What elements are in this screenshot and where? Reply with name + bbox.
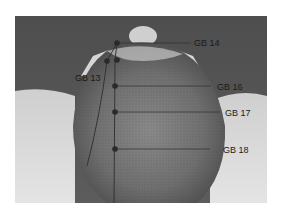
head-photo: GB 14 GB 13 GB 16 GB 17 GB 18 bbox=[15, 16, 267, 203]
gb17-label: GB 17 bbox=[225, 108, 251, 118]
gb13-label: GB 13 bbox=[75, 73, 101, 83]
gb18-label: GB 18 bbox=[223, 145, 249, 155]
gb15-point bbox=[114, 57, 120, 63]
gb14-point bbox=[114, 40, 120, 46]
gb16-label: GB 16 bbox=[217, 82, 243, 92]
gb18-point bbox=[112, 146, 118, 152]
gb13-point-upper bbox=[104, 58, 110, 64]
gb16-point bbox=[112, 83, 118, 89]
gb17-point bbox=[112, 109, 118, 115]
left-shoulder bbox=[15, 89, 75, 203]
gb14-label: GB 14 bbox=[194, 38, 220, 48]
